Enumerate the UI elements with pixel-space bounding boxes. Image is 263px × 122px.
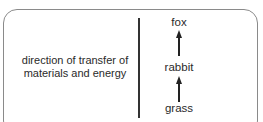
- direction-label-line-2: materials and energy: [14, 67, 136, 80]
- node-fox: fox: [149, 16, 209, 28]
- direction-label: direction of transfer of materials and e…: [14, 54, 136, 80]
- direction-label-line-1: direction of transfer of: [14, 54, 136, 67]
- node-rabbit: rabbit: [149, 61, 209, 73]
- divider-line: [138, 18, 140, 118]
- node-grass: grass: [149, 102, 209, 114]
